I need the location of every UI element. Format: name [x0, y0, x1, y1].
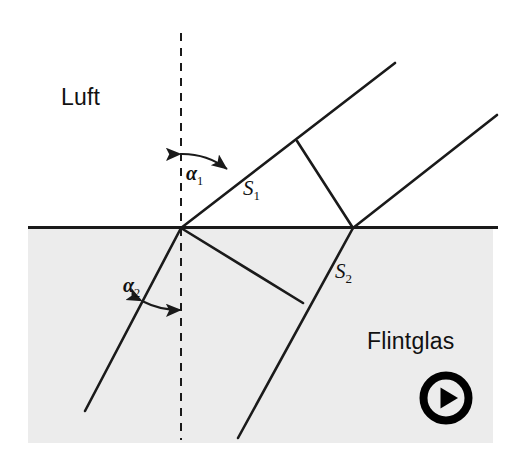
alpha2-subscript: 2	[134, 286, 140, 300]
label-ray-s1: S1	[243, 178, 260, 202]
label-lower-medium: Flintglas	[367, 330, 454, 353]
s1-subscript: 1	[254, 188, 261, 203]
alpha1-glyph: α	[186, 162, 197, 184]
incident-ray-upper	[181, 63, 395, 228]
alpha1-subscript: 1	[197, 174, 203, 188]
refraction-figure: Luft Flintglas α1 α2 S1 S2	[0, 0, 525, 455]
wavefront-air	[297, 141, 353, 228]
play-circle-icon[interactable]	[419, 371, 473, 425]
label-ray-s2: S2	[335, 261, 352, 285]
label-upper-medium: Luft	[61, 86, 100, 109]
incident-ray-lower	[353, 115, 497, 228]
alpha2-glyph: α	[123, 274, 134, 296]
s2-subscript: 2	[346, 271, 353, 286]
s1-glyph: S	[243, 176, 254, 200]
play-button[interactable]	[419, 371, 473, 425]
label-angle-incidence: α1	[186, 163, 203, 187]
label-angle-refraction: α2	[123, 275, 140, 299]
s2-glyph: S	[335, 259, 346, 283]
